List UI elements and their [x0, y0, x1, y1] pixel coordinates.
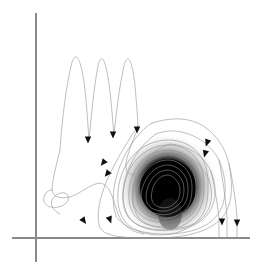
oscillation-group [60, 57, 138, 150]
left-hook-spiral [44, 190, 69, 214]
trajectory-plot-figure [0, 0, 269, 266]
plot-canvas [0, 0, 269, 266]
flow-arrow-7-icon [106, 216, 114, 225]
flow-arrow-5-icon [102, 169, 111, 179]
flow-arrow-4-icon [98, 158, 107, 168]
flow-arrow-10-icon [219, 218, 225, 225]
oscillation-path [60, 57, 138, 150]
right-descent-1 [229, 164, 237, 238]
flow-arrow-3-icon [134, 126, 140, 133]
flow-arrow-11-icon [234, 219, 240, 226]
flow-arrow-1-icon [85, 136, 91, 143]
flow-arrow-2-icon [110, 131, 116, 138]
flow-arrow-6-icon [79, 216, 88, 226]
